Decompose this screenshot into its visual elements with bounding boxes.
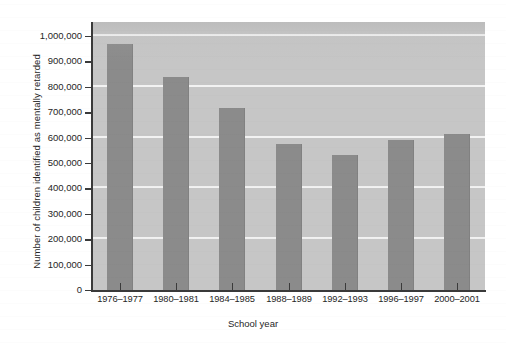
x-tick (176, 283, 177, 291)
x-tick (289, 283, 290, 291)
y-tick-label: 300,000 (12, 208, 82, 219)
x-axis-title: School year (0, 318, 506, 329)
x-tick (232, 283, 233, 291)
y-tick (85, 36, 92, 37)
gridline (92, 34, 485, 36)
y-tick (85, 239, 92, 240)
x-tick (120, 283, 121, 291)
y-tick-label: 100,000 (12, 259, 82, 270)
bar (107, 44, 133, 290)
plot-area (92, 22, 485, 290)
x-tick-label: 2000–2001 (420, 294, 494, 304)
bar (276, 144, 302, 290)
y-tick (85, 214, 92, 215)
gridline (92, 85, 485, 87)
gridline (92, 136, 485, 138)
y-tick-label: 200,000 (12, 233, 82, 244)
bar (388, 140, 414, 290)
bar-chart-figure: Number of children identified as mentall… (0, 0, 506, 343)
x-tick (401, 283, 402, 291)
y-tick (85, 138, 92, 139)
x-tick (457, 283, 458, 291)
y-tick-label: 1,000,000 (12, 30, 82, 41)
bar (219, 108, 245, 290)
y-tick (85, 112, 92, 113)
y-tick-label: 500,000 (12, 157, 82, 168)
y-tick (85, 265, 92, 266)
y-tick (85, 188, 92, 189)
y-tick-label: 900,000 (12, 55, 82, 66)
bar (332, 155, 358, 290)
y-tick-label: 800,000 (12, 81, 82, 92)
x-tick (345, 283, 346, 291)
y-tick (85, 163, 92, 164)
y-tick (85, 290, 92, 291)
y-tick (85, 87, 92, 88)
y-tick-label: 700,000 (12, 106, 82, 117)
y-tick (85, 61, 92, 62)
y-tick-label: 0 (12, 284, 82, 295)
y-tick-label: 400,000 (12, 182, 82, 193)
bar (163, 77, 189, 290)
bar (444, 134, 470, 290)
y-tick-label: 600,000 (12, 132, 82, 143)
